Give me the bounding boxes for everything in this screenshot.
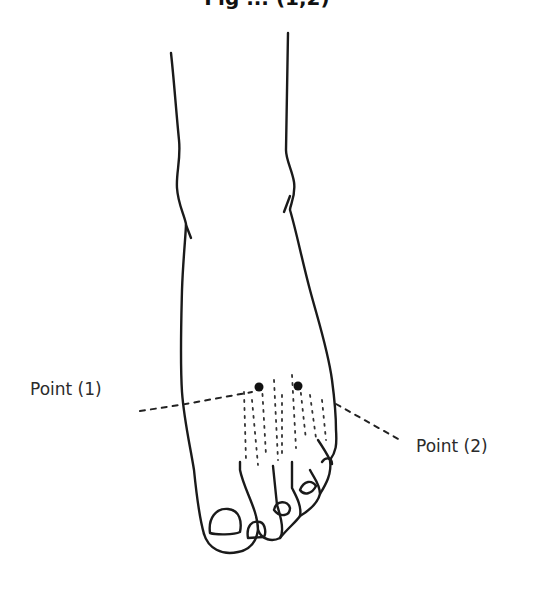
point-2-label: Point (2) [416, 436, 488, 456]
leg-right-outline [286, 33, 336, 460]
point-1-label: Point (1) [30, 379, 102, 399]
leg-left-outline [171, 53, 204, 534]
fourth-toe-nail [300, 482, 316, 494]
leader-line-1 [140, 392, 252, 411]
point-2-marker [294, 382, 303, 391]
big-toe-outline [204, 462, 258, 553]
third-toe-nail [274, 502, 290, 515]
fifth-toe-outline [318, 440, 330, 494]
point-1-marker [255, 383, 264, 392]
leader-line-2 [336, 404, 400, 440]
big-toe-nail [210, 509, 241, 534]
foot-diagram [0, 0, 534, 594]
